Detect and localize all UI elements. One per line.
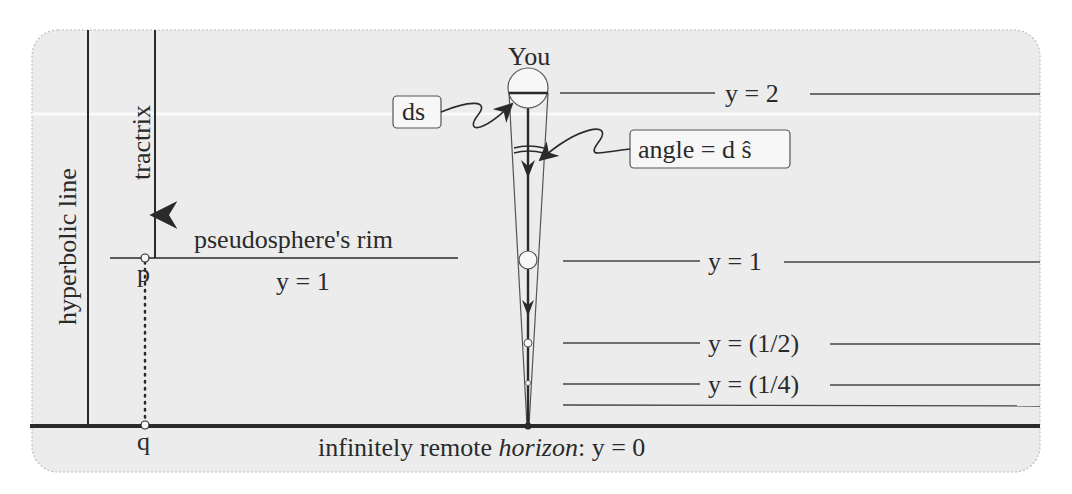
level-y-1-label: y = 1 (708, 247, 762, 276)
rim-title: pseudosphere's rim (194, 225, 393, 254)
rim-value: y = 1 (276, 267, 330, 296)
tractrix-label: tractrix (127, 105, 156, 180)
horizon-endpoint-marker (525, 423, 532, 430)
observer-yhalf-marker (524, 339, 532, 347)
hyperbolic-line-label: hyperbolic line (53, 168, 82, 325)
level-y-half-label: y = (1/2) (708, 329, 799, 358)
point-p-label: p (137, 259, 150, 288)
point-q-label: q (137, 427, 150, 456)
horizon-caption-italic: horizon (499, 433, 578, 462)
horizon-caption-prefix: infinitely remote (318, 433, 499, 462)
observer-y1-marker (519, 251, 537, 269)
level-y-quarter-label: y = (1/4) (708, 370, 799, 399)
observer-you-circle (508, 68, 548, 108)
horizon-caption-suffix: : y = 0 (578, 433, 645, 462)
pseudosphere-diagram: hyperbolic line tractrix pseudosphere's … (0, 0, 1072, 494)
observer-yquarter-marker (526, 381, 531, 386)
angle-callout-label: angle = d ŝ (638, 135, 752, 164)
horizon-caption: infinitely remote horizon: y = 0 (318, 433, 645, 462)
level-y-2-label: y = 2 (725, 79, 779, 108)
you-label: You (508, 42, 550, 71)
ds-callout-label: ds (402, 97, 425, 126)
